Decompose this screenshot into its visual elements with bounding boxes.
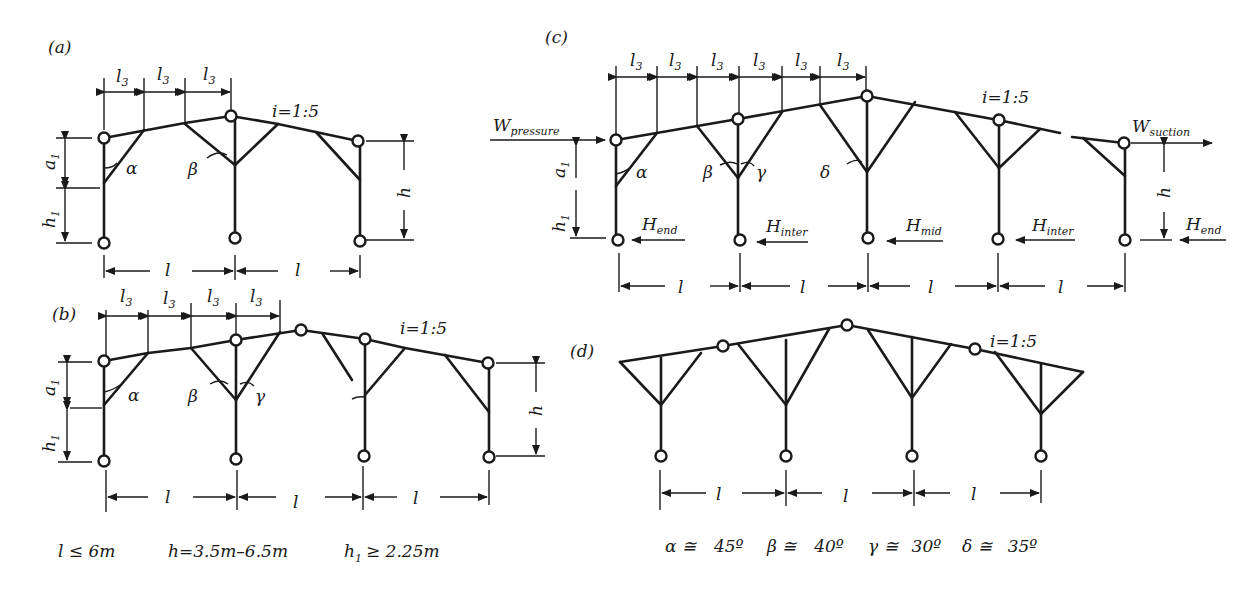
panel-d-slope: i=1:5 <box>990 331 1037 351</box>
angle-alpha-label: α <box>126 158 138 178</box>
svg-text:l: l <box>413 488 418 508</box>
svg-text:h: h <box>394 187 414 198</box>
angle-values-row: α ≅45º β ≅40º γ ≅30º δ ≅35º <box>665 536 1037 556</box>
angle-gamma-value: γ ≅30º <box>868 536 941 556</box>
svg-text:l3: l3 <box>669 50 681 73</box>
svg-text:l3: l3 <box>116 66 128 89</box>
wind-suction-load: Wsuction <box>1131 116 1212 143</box>
svg-text:γ: γ <box>756 162 767 182</box>
svg-text:l: l <box>928 277 933 297</box>
panel-c-slope: i=1:5 <box>982 87 1029 107</box>
svg-text:l3: l3 <box>120 286 132 309</box>
panel-b-span-dimensions: l l l <box>106 466 489 512</box>
panel-d: (d) i=1:5 l l <box>570 320 1083 557</box>
angle-beta-label: β <box>187 159 198 179</box>
svg-text:l: l <box>165 260 170 280</box>
svg-text:l: l <box>293 492 298 512</box>
span-constraint: l ≤ 6m <box>58 541 115 561</box>
svg-text:h1: h1 <box>549 214 572 232</box>
svg-text:Wpressure: Wpressure <box>493 115 560 138</box>
svg-text:l3: l3 <box>207 286 219 309</box>
svg-text:l: l <box>1058 277 1063 297</box>
panel-a-slope: i=1:5 <box>272 101 319 121</box>
svg-text:l3: l3 <box>157 64 169 87</box>
panel-a-span-dimensions: l l <box>104 255 360 280</box>
svg-text:Hinter: Hinter <box>765 216 808 239</box>
panel-d-span-dimensions: l l l <box>660 470 1041 510</box>
svg-text:l: l <box>800 277 805 297</box>
svg-text:h1: h1 <box>39 434 62 452</box>
panel-b-label: (b) <box>52 304 76 324</box>
svg-text:l3: l3 <box>250 286 262 309</box>
panel-b-height-dimensions: a1 h1 h <box>39 362 546 462</box>
svg-text:a1: a1 <box>39 379 62 396</box>
panel-a: (a) l3 l3 l3 α β i=1:5 <box>39 37 414 280</box>
svg-text:a1: a1 <box>549 161 572 178</box>
svg-text:a1: a1 <box>39 153 62 170</box>
svg-text:l: l <box>165 487 170 507</box>
svg-text:l: l <box>843 486 848 506</box>
panel-b-slope: i=1:5 <box>400 318 447 338</box>
panel-c-span-dimensions: l l l l <box>619 253 1125 297</box>
svg-text:β: β <box>187 386 198 406</box>
panel-d-label: (d) <box>570 341 594 361</box>
panel-c-label: (c) <box>545 27 568 47</box>
svg-text:l: l <box>971 484 976 504</box>
svg-text:Hinter: Hinter <box>1031 215 1074 238</box>
constraints-row: l ≤ 6m h=3.5m–6.5m h1≥ 2.25m <box>58 541 440 565</box>
svg-text:h: h <box>1154 187 1174 198</box>
panel-a-label: (a) <box>48 37 71 57</box>
svg-text:h: h <box>526 405 546 416</box>
angle-delta-value: δ ≅35º <box>962 536 1037 556</box>
svg-text:Hmid: Hmid <box>905 215 942 238</box>
svg-text:α: α <box>636 162 648 182</box>
height-constraint: h=3.5m–6.5m <box>168 541 288 561</box>
svg-text:l: l <box>295 260 300 280</box>
frame-diagrams: (a) l3 l3 l3 α β i=1:5 <box>0 0 1255 593</box>
panel-c: (c) l3 l3 l3 l3 l3 l3 <box>490 27 1226 297</box>
svg-text:l: l <box>678 277 683 297</box>
horizontal-reactions: Hend Hinter Hmid Hinter Hend <box>632 214 1226 242</box>
svg-text:Hend: Hend <box>1185 214 1221 237</box>
svg-text:l3: l3 <box>163 288 175 311</box>
svg-text:Wsuction: Wsuction <box>1132 116 1190 139</box>
h1-constraint: h1≥ 2.25m <box>344 541 440 565</box>
svg-text:l: l <box>716 484 721 504</box>
svg-text:α: α <box>128 385 140 405</box>
svg-text:l3: l3 <box>630 50 642 73</box>
svg-text:γ: γ <box>255 386 266 406</box>
svg-text:β: β <box>702 162 713 182</box>
panel-c-rafter-end <box>1072 137 1124 143</box>
angle-beta-value: β ≅40º <box>766 536 844 556</box>
angle-alpha-value: α ≅45º <box>665 536 744 556</box>
svg-text:δ: δ <box>820 162 830 182</box>
panel-a-height-dimensions: a1 h1 h <box>39 138 414 243</box>
svg-text:l3: l3 <box>711 50 723 73</box>
svg-text:h1: h1 <box>39 210 62 228</box>
svg-text:l3: l3 <box>837 50 849 73</box>
svg-text:l3: l3 <box>203 64 215 87</box>
svg-text:l3: l3 <box>753 50 765 73</box>
wind-pressure-load: Wpressure <box>490 115 605 140</box>
svg-text:l3: l3 <box>795 50 807 73</box>
svg-text:Hend: Hend <box>641 214 677 237</box>
panel-b: (b) l3 l3 l3 l3 α <box>39 286 546 565</box>
